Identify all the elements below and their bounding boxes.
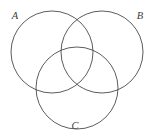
set-label-b: B: [137, 10, 144, 21]
venn-diagram-canvas: A B C: [0, 0, 154, 136]
figure-background: [0, 0, 154, 136]
venn-diagram-figure: A B C: [0, 0, 154, 136]
set-label-a: A: [11, 10, 19, 21]
set-label-c: C: [71, 120, 79, 131]
